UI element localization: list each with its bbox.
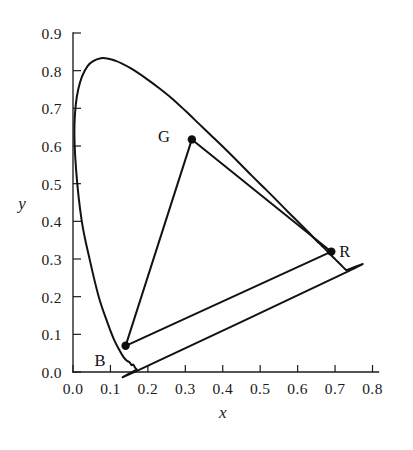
chromaticity-diagram-figure: 0.00.10.20.30.40.50.60.70.80.9 0.00.10.2… bbox=[0, 0, 413, 450]
y-tick-label-0: 0.0 bbox=[41, 364, 62, 381]
x-tick-label-8: 0.8 bbox=[362, 380, 383, 397]
x-tick-label-3: 0.3 bbox=[175, 380, 196, 397]
x-axis-tick-labels: 0.00.10.20.30.40.50.60.70.8 bbox=[63, 380, 383, 397]
primary-dot-r bbox=[327, 247, 335, 255]
x-tick-label-7: 0.7 bbox=[325, 380, 346, 397]
primary-dot-b bbox=[121, 342, 129, 350]
x-tick-label-4: 0.4 bbox=[212, 380, 233, 397]
x-axis-tick-marks bbox=[73, 365, 373, 372]
axis-lines bbox=[73, 33, 379, 372]
primary-label-g: G bbox=[158, 127, 170, 146]
y-tick-label-9: 0.9 bbox=[41, 25, 62, 42]
x-tick-label-5: 0.5 bbox=[250, 380, 271, 397]
x-axis-title: x bbox=[218, 403, 227, 422]
y-tick-label-3: 0.3 bbox=[41, 251, 62, 268]
primary-point-markers bbox=[121, 135, 335, 350]
y-axis-title: y bbox=[16, 194, 26, 213]
gamut-triangle bbox=[126, 139, 332, 345]
primary-label-r: R bbox=[339, 242, 350, 261]
y-tick-label-6: 0.6 bbox=[41, 138, 62, 155]
primary-dot-g bbox=[188, 135, 196, 143]
y-tick-label-7: 0.7 bbox=[41, 100, 62, 117]
y-tick-label-2: 0.2 bbox=[41, 289, 62, 306]
x-tick-label-6: 0.6 bbox=[287, 380, 308, 397]
primary-label-b: B bbox=[95, 351, 106, 370]
y-axis-tick-labels: 0.00.10.20.30.40.50.60.70.80.9 bbox=[41, 25, 62, 381]
y-tick-label-5: 0.5 bbox=[41, 176, 62, 193]
x-tick-label-0: 0.0 bbox=[63, 380, 84, 397]
y-tick-label-8: 0.8 bbox=[41, 63, 62, 80]
chart-canvas: 0.00.10.20.30.40.50.60.70.80.9 0.00.10.2… bbox=[0, 0, 413, 450]
y-tick-label-4: 0.4 bbox=[41, 213, 62, 230]
y-tick-label-1: 0.1 bbox=[41, 326, 62, 343]
x-tick-label-2: 0.2 bbox=[138, 380, 159, 397]
x-tick-label-1: 0.1 bbox=[100, 380, 121, 397]
spectral-locus-curve bbox=[74, 58, 362, 377]
